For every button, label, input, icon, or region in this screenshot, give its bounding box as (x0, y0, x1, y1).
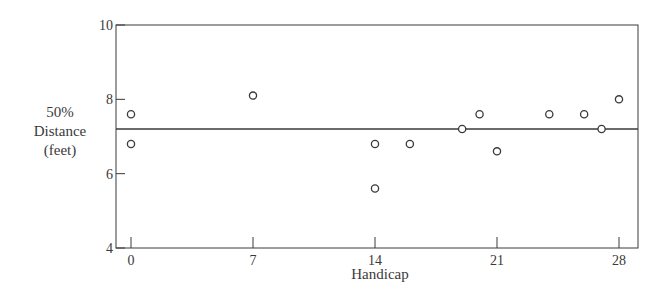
data-point (581, 111, 588, 118)
y-tick-label: 6 (106, 167, 113, 182)
data-point (371, 140, 378, 147)
data-points (127, 92, 622, 192)
data-point (546, 111, 553, 118)
scatter-plot: 46810 07142128 (0, 0, 665, 307)
y-axis-label: 50% Distance (feet) (30, 103, 90, 160)
data-point (406, 140, 413, 147)
y-tick-label: 10 (99, 18, 113, 33)
data-point (598, 125, 605, 132)
y-axis-ticks: 46810 (99, 18, 125, 256)
data-point (249, 92, 256, 99)
y-axis-label-line-3: (feet) (30, 141, 90, 160)
data-point (615, 96, 622, 103)
data-point (493, 148, 500, 155)
y-tick-label: 8 (106, 92, 113, 107)
data-point (127, 140, 134, 147)
x-tick-label: 28 (612, 253, 626, 268)
data-point (127, 111, 134, 118)
data-point (371, 185, 378, 192)
y-axis-label-line-2: Distance (30, 122, 90, 141)
x-tick-label: 0 (128, 253, 135, 268)
data-point (459, 125, 466, 132)
x-tick-label: 7 (250, 253, 257, 268)
x-axis-ticks: 07142128 (128, 237, 627, 268)
plot-frame (116, 25, 638, 248)
y-tick-label: 4 (106, 241, 113, 256)
data-point (476, 111, 483, 118)
y-axis-label-line-1: 50% (30, 103, 90, 122)
plot-border (116, 25, 638, 248)
x-axis-label: Handicap (300, 266, 460, 283)
x-tick-label: 21 (490, 253, 504, 268)
